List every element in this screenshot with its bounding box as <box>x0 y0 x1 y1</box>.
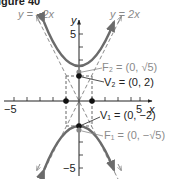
focus-f2-label: F₂ = (0, √5) <box>102 61 157 73</box>
vertex-v1-label: V₁ = (0, −2) <box>100 109 156 121</box>
vertex-v2-label: V₂ = (0, 2) <box>104 76 154 88</box>
focus-f1-label: F₁ = (0, −√5) <box>104 129 165 141</box>
point-neg-one <box>63 98 69 104</box>
point-pos-one <box>89 98 95 104</box>
y-tick-max-label: 5 <box>70 28 76 40</box>
y-tick-min-label: −5 <box>63 162 76 174</box>
asymptote-label-pos: y = 2x <box>109 8 140 20</box>
asymptote-label-neg: y = −2x <box>17 8 55 20</box>
y-axis-label: y <box>70 14 78 26</box>
vertex-v2-point <box>76 73 82 79</box>
x-tick-min-label: −5 <box>4 103 17 115</box>
figure-title-fragment: igure 40 <box>0 0 40 7</box>
focus-f1-point <box>76 127 81 132</box>
hyperbola-diagram: igure 40 y = −2x y = 2x −5 5 x <box>0 0 170 179</box>
